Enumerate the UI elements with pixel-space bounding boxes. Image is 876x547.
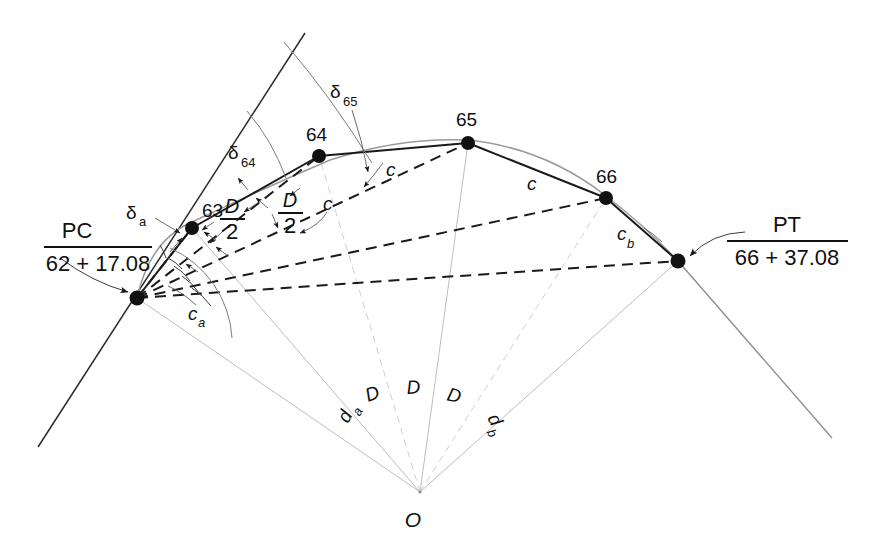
radial-to-66 <box>420 198 606 492</box>
chord-cb-symbol: c <box>617 223 627 244</box>
label-delta-64: δ 64 <box>228 142 255 170</box>
pt-label-bottom: 66 + 37.08 <box>735 245 840 270</box>
leader-halfD-1-up <box>238 178 248 190</box>
tangent-angle-arcs <box>247 42 372 178</box>
tick-chord-63-64 <box>244 204 256 212</box>
label-half-D-1: D 2 <box>220 195 245 244</box>
long-chord-pc-pt <box>137 261 678 298</box>
label-chord-c-1: c <box>323 193 333 214</box>
leader-delta-65 <box>352 110 368 172</box>
radial-lines <box>137 143 678 494</box>
label-chord-c-3: c <box>527 173 537 194</box>
station-label-66: 66 <box>596 166 617 187</box>
delta-64-subscript: 64 <box>241 155 255 170</box>
label-delta-65: δ 65 <box>330 81 357 109</box>
label-deg-D-3: D <box>445 384 464 408</box>
dot-pc[interactable] <box>130 291 145 306</box>
label-chord-ca: c a <box>188 303 205 330</box>
label-half-D-2: D 2 <box>278 189 303 238</box>
radial-to-65 <box>420 143 468 492</box>
chord-ca-symbol: c <box>188 303 198 324</box>
pt-label: PT 66 + 37.08 <box>727 212 848 270</box>
pc-label-top: PC <box>62 218 93 243</box>
dot-65[interactable] <box>461 136 475 150</box>
radial-to-63 <box>192 228 420 492</box>
pc-label: PC 62 + 17.08 <box>44 218 152 276</box>
label-delta-a: δ a <box>126 202 147 229</box>
delta-a-symbol: δ <box>126 202 137 223</box>
delta-65-symbol: δ <box>330 81 341 102</box>
half-D-2-denominator: 2 <box>284 213 296 238</box>
delta-64-symbol: δ <box>228 142 239 163</box>
dot-64[interactable] <box>312 149 326 163</box>
dot-63[interactable] <box>185 221 199 235</box>
label-chord-cb: c b <box>617 223 634 251</box>
delta-a-subscript: a <box>139 214 147 229</box>
leader-delta-a <box>155 218 180 233</box>
half-D-1-denominator: 2 <box>226 219 238 244</box>
forward-tangent <box>678 261 832 438</box>
pt-label-top: PT <box>773 212 801 237</box>
leader-halfD-2-down <box>272 214 278 228</box>
centre-label-O: O <box>405 508 421 531</box>
station-label-65: 65 <box>456 109 477 130</box>
dot-66[interactable] <box>599 191 613 205</box>
tick-63-left <box>202 222 214 230</box>
curve-layout-diagram: PC 62 + 17.08 PT 66 + 37.08 63 64 65 66 … <box>0 0 876 547</box>
deg-db-subscript: b <box>484 426 501 439</box>
station-label-64: 64 <box>306 124 328 145</box>
radial-to-pt <box>420 261 678 492</box>
delta-65-subscript: 65 <box>343 94 357 109</box>
label-deg-D-2: D <box>406 376 421 398</box>
chord-cb-subscript: b <box>627 236 634 251</box>
station-label-63: 63 <box>202 200 223 221</box>
label-chord-c-2: c <box>386 159 396 180</box>
centre-point-dot <box>418 490 421 493</box>
figure-canvas: PC 62 + 17.08 PT 66 + 37.08 63 64 65 66 … <box>0 0 876 547</box>
pc-label-bottom: 62 + 17.08 <box>46 251 151 276</box>
half-D-2-numerator: D <box>283 189 297 211</box>
leader-arrows <box>60 110 745 305</box>
half-D-1-numerator: D <box>225 195 239 217</box>
dot-pt[interactable] <box>671 254 686 269</box>
tick-chord-mid <box>204 232 216 240</box>
arc-delta65-sweep <box>284 42 372 163</box>
tick-chord-pc-63 <box>216 247 228 256</box>
chord-ca-subscript: a <box>198 315 205 330</box>
chord-65-66 <box>468 143 606 198</box>
leader-c1 <box>300 212 327 233</box>
label-deg-D-1: D <box>362 381 382 406</box>
